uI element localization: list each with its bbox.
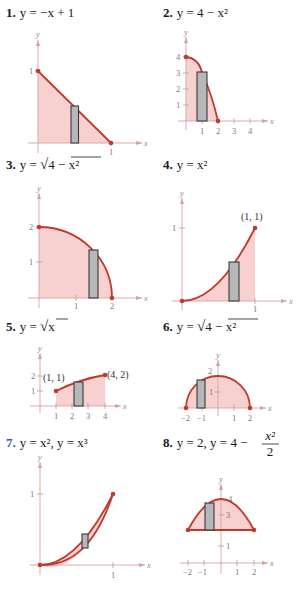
x-tick-label: 1 [111, 570, 115, 580]
problem-8: 8.y = 2, y = 4 − x² 2 1 3 4 −2 −1 1 2 y … [163, 428, 279, 577]
x-tick-label: 1 [200, 126, 204, 136]
equation: y = −x + 1 [20, 5, 75, 20]
y-axis-label: y [35, 29, 40, 39]
equation-prefix: y = [20, 319, 40, 334]
representative-rectangle [197, 72, 207, 121]
x-tick-label: 1 [109, 147, 113, 157]
exercise-figure-sheet: 1.y = −x + 1 1 1 y x 2.y = 4 − x² [0, 0, 304, 589]
x-tick-label: 1 [74, 301, 78, 311]
representative-rectangle [82, 534, 88, 548]
x-tick-label: −2 [183, 567, 192, 577]
problem-3: 3.y = √4 − x² 1 2 1 2 y x [6, 156, 148, 311]
y-tick-label: 1 [176, 100, 180, 110]
x-tick-label: 2 [110, 301, 114, 311]
problem-number: 2. [163, 5, 173, 20]
x-axis-label: x [143, 138, 148, 148]
x-tick-label: 2 [252, 567, 256, 577]
problem-1: 1.y = −x + 1 1 1 y x [6, 5, 148, 157]
fraction-numerator: x² [264, 428, 276, 443]
svg-text:8.y = 2, y = 4 −: 8.y = 2, y = 4 − [163, 435, 248, 450]
graph-6: 1 2 −2 −1 1 2 y x [178, 350, 272, 423]
representative-rectangle [229, 262, 239, 301]
x-tick-label: −1 [197, 413, 206, 423]
equation: y = x² [177, 157, 208, 172]
representative-rectangle [89, 250, 98, 298]
y-tick-label: 1 [29, 66, 33, 76]
graph-5: 1 2 1 2 3 4 y x (1, 1) (4, 2) [30, 343, 129, 421]
problem-number: 4. [163, 157, 173, 172]
equation-radicand: 4 − x² [205, 319, 236, 334]
x-tick-label: −2 [181, 413, 190, 423]
y-tick-label: 1 [209, 387, 213, 397]
representative-rectangle [197, 380, 205, 408]
graph-4: 1 1 y x (1, 1) [172, 188, 293, 314]
y-axis-label: y [36, 183, 41, 193]
x-axis-label: x [288, 296, 293, 306]
y-axis-label: y [218, 474, 223, 484]
x-tick-label: −1 [198, 567, 207, 577]
problem-4: 4.y = x² 1 1 y x (1, 1) [163, 157, 293, 314]
svg-text:6.y = √4 − x²: 6.y = √4 − x² [163, 318, 236, 334]
x-axis-label: x [267, 403, 272, 413]
problem-number: 8. [163, 435, 173, 450]
x-tick-label: 2 [248, 413, 252, 423]
svg-text:2.y = 4 − x²: 2.y = 4 − x² [163, 5, 228, 20]
y-tick-label: 4 [176, 52, 181, 62]
y-tick-label: 1 [31, 386, 35, 396]
equation: y = 4 − x² [177, 5, 228, 20]
equation-prefix: y = [177, 319, 197, 334]
y-tick-label: 2 [176, 84, 180, 94]
svg-text:3.y = √4 − x²: 3.y = √4 − x² [6, 156, 79, 172]
equation: y = x², y = x³ [20, 435, 88, 450]
x-tick-label: 1 [253, 304, 257, 314]
svg-text:1.y = −x + 1: 1.y = −x + 1 [6, 5, 74, 20]
y-tick-label: 3 [226, 510, 230, 520]
graph-2: 1 2 3 4 1 2 3 4 y x [176, 27, 274, 136]
y-tick-label: 2 [208, 366, 212, 376]
equation-prefix: y = [20, 157, 40, 172]
point-label: (1, 1) [241, 211, 263, 223]
x-axis-label: x [143, 293, 148, 303]
problem-number: 1. [6, 5, 16, 20]
equation-radicand: 4 − x² [48, 157, 79, 172]
equation-radicand: x [48, 319, 55, 334]
x-tick-label: 3 [86, 411, 90, 421]
y-axis-label: y [183, 27, 188, 37]
x-axis-label: x [146, 560, 151, 570]
curve-x-cubed [40, 494, 113, 565]
y-tick-label: 3 [176, 68, 180, 78]
problem-number: 7. [6, 435, 16, 450]
svg-text:4.y = x²: 4.y = x² [163, 157, 208, 172]
equation-prefix: y = 2, y = 4 − [177, 435, 248, 450]
representative-rectangle [71, 106, 79, 143]
y-tick-label: 1 [226, 541, 230, 551]
point-label: (1, 1) [43, 372, 65, 384]
y-tick-label: 2 [31, 371, 35, 381]
graph-7: 1 1 y x [30, 452, 151, 580]
y-tick-label: 1 [29, 257, 33, 267]
problem-5: 5.y = √x 1 2 1 2 3 4 y x (1, 1) (4, 2) [6, 318, 129, 421]
svg-text:7.y = x², y = x³: 7.y = x², y = x³ [6, 435, 88, 450]
x-tick-label: 4 [248, 126, 253, 136]
fraction-denominator: 2 [267, 444, 274, 459]
x-tick-label: 1 [235, 567, 239, 577]
graph-8: 1 3 4 −2 −1 1 2 y x [180, 474, 274, 577]
graph-1: 1 1 y x [28, 29, 148, 157]
x-tick-label: 1 [54, 411, 58, 421]
representative-rectangle [74, 382, 83, 406]
svg-text:5.y = √x: 5.y = √x [6, 318, 55, 334]
y-axis-label: y [179, 188, 184, 198]
x-tick-label: 2 [70, 411, 74, 421]
x-axis-label: x [269, 116, 274, 126]
x-tick-label: 1 [232, 413, 236, 423]
y-tick-label: 1 [172, 223, 176, 233]
problem-number: 5. [6, 319, 16, 334]
problem-6: 6.y = √4 − x² 1 2 −2 −1 1 2 y x [163, 318, 272, 423]
x-tick-label: 2 [216, 126, 220, 136]
x-axis-label: x [269, 558, 274, 568]
problem-number: 6. [163, 319, 173, 334]
x-tick-label: 4 [103, 411, 108, 421]
graph-3: 1 2 1 2 y x [28, 183, 148, 311]
y-tick-label: 2 [29, 222, 33, 232]
y-tick-label: 1 [30, 489, 34, 499]
